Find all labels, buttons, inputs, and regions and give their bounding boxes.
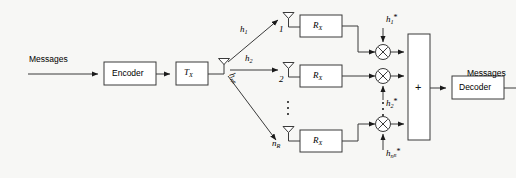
tx-label: TX (184, 67, 193, 78)
multiplier-nr (376, 117, 391, 132)
channel-gain-h2-label: h2 (245, 53, 253, 64)
rx-label-2: RX (313, 70, 322, 81)
encoder-label: Encoder (112, 68, 144, 78)
channel-path-1 (228, 20, 278, 62)
receive-antenna-2-icon (283, 63, 300, 78)
antenna-column-ellipsis (287, 99, 289, 117)
receive-antenna-2-label: 2 (279, 74, 284, 84)
combiner-plus-label: + (415, 81, 421, 93)
weight-h1-conj-label: h1* (386, 13, 398, 25)
decoder-label: Decoder (459, 82, 491, 92)
multiplier-1 (376, 45, 391, 60)
weight-hnr-conj-label: hnR* (386, 147, 401, 159)
receive-antenna-1-label: 1 (279, 24, 284, 34)
rx-label-nr: RX (313, 135, 322, 146)
rx1-to-mult-wire (342, 26, 375, 52)
input-messages-label: Messages (29, 54, 68, 64)
transmit-antenna-icon (219, 59, 230, 75)
weight-h2-conj-label: h2* (386, 97, 398, 109)
diagram-canvas: Messages Encoder TX h1 h2 hnR 1 2 nR RX … (0, 0, 516, 178)
receive-antenna-1-icon (283, 13, 300, 28)
rx-label-1: RX (313, 20, 322, 31)
channel-gain-h1-label: h1 (240, 24, 248, 35)
channel-path-nr (228, 76, 276, 140)
receive-antenna-nr-icon (283, 127, 300, 142)
multiplier-column-ellipsis (382, 100, 384, 118)
diagram-svg (0, 0, 516, 178)
multiplier-2 (376, 69, 391, 84)
rxnr-to-mult-wire (342, 124, 375, 141)
output-messages-label: Messages (467, 68, 506, 78)
receive-antenna-nr-label: nR (272, 138, 280, 149)
